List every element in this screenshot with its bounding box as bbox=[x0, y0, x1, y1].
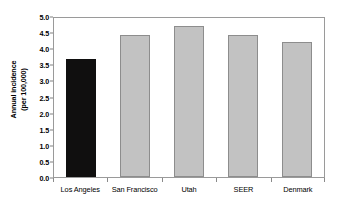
x-tick-mark bbox=[216, 178, 217, 182]
y-tick-mark bbox=[50, 65, 53, 66]
y-tick-label: 0.5 bbox=[30, 157, 49, 166]
plot-area bbox=[53, 17, 325, 178]
y-axis-title-line-2: (per 100,000) bbox=[19, 60, 29, 118]
y-tick-mark bbox=[50, 33, 53, 34]
bars-layer bbox=[54, 18, 324, 177]
y-axis-title-line-1: Annual incidence bbox=[10, 60, 20, 118]
bar-los-angeles[interactable] bbox=[66, 59, 95, 177]
y-tick-label: 2.0 bbox=[30, 109, 49, 118]
y-tick-mark bbox=[50, 178, 53, 179]
y-tick-mark bbox=[50, 81, 53, 82]
y-tick-label: 5.0 bbox=[30, 13, 49, 22]
y-tick-label: 3.5 bbox=[30, 61, 49, 70]
y-tick-mark bbox=[50, 97, 53, 98]
y-tick-mark bbox=[50, 49, 53, 50]
x-axis-category-labels: Los AngelesSan FranciscoUtahSEERDenmark bbox=[53, 184, 325, 198]
y-axis-tick-labels: 0.00.51.01.52.02.53.03.54.04.55.0 bbox=[30, 17, 49, 178]
y-tick-mark bbox=[50, 113, 53, 114]
bar-slot bbox=[108, 18, 162, 177]
y-tick-label: 4.5 bbox=[30, 29, 49, 38]
y-tick-label: 4.0 bbox=[30, 45, 49, 54]
y-tick-mark bbox=[50, 145, 53, 146]
x-tick-mark bbox=[324, 178, 325, 182]
y-tick-mark bbox=[50, 129, 53, 130]
y-tick-label: 1.5 bbox=[30, 125, 49, 134]
x-tick-mark bbox=[53, 178, 54, 182]
x-tick-mark bbox=[271, 178, 272, 182]
bar-slot bbox=[216, 18, 270, 177]
bar-slot bbox=[54, 18, 108, 177]
x-axis-tick-marks bbox=[53, 178, 325, 183]
bar-utah[interactable] bbox=[174, 26, 203, 177]
x-axis-label-denmark: Denmark bbox=[271, 184, 325, 198]
bar-denmark[interactable] bbox=[282, 42, 311, 177]
y-tick-label: 2.5 bbox=[30, 93, 49, 102]
bar-chart-figure: Annual incidence (per 100,000) 0.00.51.0… bbox=[0, 0, 342, 212]
y-tick-label: 3.0 bbox=[30, 77, 49, 86]
x-axis-label-utah: Utah bbox=[162, 184, 216, 198]
bar-san-francisco[interactable] bbox=[120, 35, 149, 177]
x-tick-mark bbox=[162, 178, 163, 182]
y-tick-label: 0.0 bbox=[30, 174, 49, 183]
y-tick-label: 1.0 bbox=[30, 141, 49, 150]
x-axis-label-san-francisco: San Francisco bbox=[107, 184, 161, 198]
x-axis-label-los-angeles: Los Angeles bbox=[53, 184, 107, 198]
bar-seer[interactable] bbox=[228, 35, 257, 177]
y-tick-mark bbox=[50, 17, 53, 18]
x-tick-mark bbox=[107, 178, 108, 182]
bar-slot bbox=[162, 18, 216, 177]
bar-slot bbox=[270, 18, 324, 177]
y-tick-mark bbox=[50, 161, 53, 162]
x-axis-label-seer: SEER bbox=[216, 184, 270, 198]
